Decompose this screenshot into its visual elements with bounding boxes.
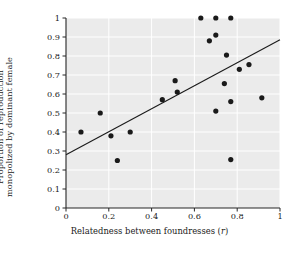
data-point — [228, 99, 233, 104]
x-tick-label: 0.6 — [188, 211, 201, 221]
x-tick-label: 0.8 — [231, 211, 244, 221]
data-point — [213, 15, 218, 20]
x-axis-title-paren: ) — [225, 226, 228, 236]
data-point — [222, 81, 227, 86]
data-point — [207, 38, 212, 43]
data-point — [237, 67, 242, 72]
x-tick-label: 0 — [63, 211, 68, 221]
data-point — [160, 97, 165, 102]
scatter-plot-figure: Proportion of reproduction monopolized b… — [0, 0, 299, 254]
data-point — [246, 62, 251, 67]
data-point — [198, 15, 203, 20]
x-tick-label: 1 — [277, 211, 282, 221]
x-axis-title: Relatedness between foundresses (r) — [0, 226, 299, 236]
data-point — [228, 15, 233, 20]
data-point — [98, 110, 103, 115]
x-axis-tick-labels: 00.20.40.60.81 — [66, 211, 280, 225]
data-point — [213, 33, 218, 38]
data-point — [78, 129, 83, 134]
data-point — [108, 133, 113, 138]
x-tick-label: 0.2 — [102, 211, 115, 221]
data-point — [259, 95, 264, 100]
data-point — [228, 157, 233, 162]
data-point — [213, 109, 218, 114]
data-point — [175, 90, 180, 95]
data-point — [224, 52, 229, 57]
data-point — [173, 78, 178, 83]
x-axis-title-text: Relatedness between foundresses ( — [71, 226, 221, 236]
x-tick-label: 0.4 — [145, 211, 158, 221]
data-point — [128, 129, 133, 134]
data-point — [115, 158, 120, 163]
